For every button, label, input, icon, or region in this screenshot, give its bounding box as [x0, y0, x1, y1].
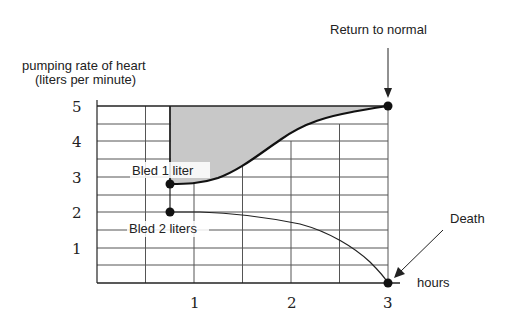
y-tick-1: 1: [72, 240, 82, 258]
bled-1-liter-label: Bled 1 liter: [132, 163, 194, 178]
y-tick-5: 5: [72, 98, 82, 116]
y-axis-title-line1: pumping rate of heart: [22, 58, 146, 73]
x-tick-1: 1: [190, 294, 200, 312]
y-tick-3: 3: [72, 169, 82, 187]
bled-2-liters-label: Bled 2 liters: [129, 221, 197, 236]
y-tick-4: 4: [72, 133, 82, 151]
x-tick-2: 2: [287, 294, 297, 312]
return-to-normal-label: Return to normal: [330, 22, 427, 37]
point-return-normal: [384, 102, 393, 111]
point-bled-2: [166, 208, 175, 217]
y-tick-2: 2: [72, 204, 82, 222]
death-label: Death: [450, 211, 485, 226]
x-tick-3: 3: [383, 294, 393, 312]
heart-pumping-chart: pumping rate of heart (liters per minute…: [0, 0, 505, 333]
return-arrow-head-icon: [384, 88, 392, 98]
point-bled-1: [166, 180, 175, 189]
point-death: [384, 279, 393, 288]
y-axis-title-line2: (liters per minute): [35, 72, 136, 87]
x-axis-title: hours: [417, 275, 450, 290]
death-arrow-shaft: [400, 230, 443, 272]
